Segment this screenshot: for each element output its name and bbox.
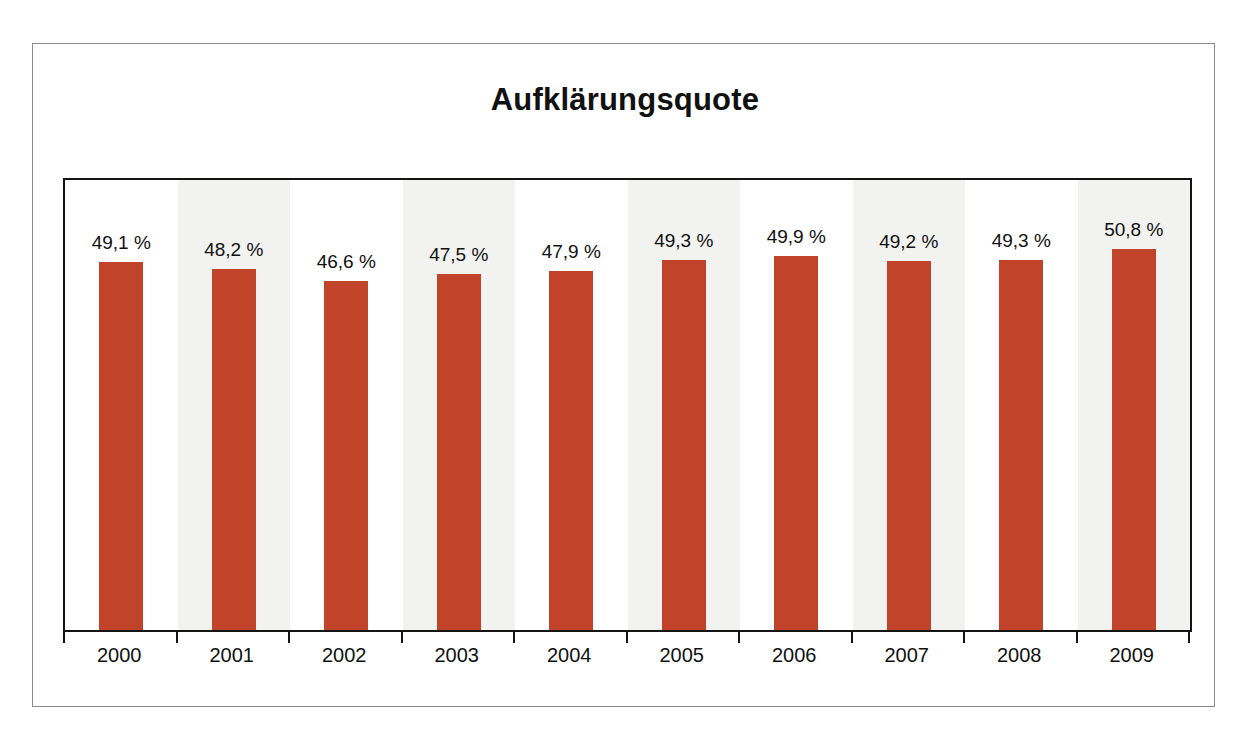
bar-value-label: 49,9 % (767, 227, 826, 246)
bar-value-label: 50,8 % (1104, 220, 1163, 239)
x-axis-tick (851, 632, 853, 643)
bar[interactable] (662, 260, 706, 630)
bar-group: 49,3 % (965, 180, 1078, 630)
x-axis-label: 2007 (885, 645, 930, 665)
x-axis: 2000200120022003200420052006200720082009 (63, 632, 1192, 674)
bar[interactable] (774, 256, 818, 630)
chart-title: Aufklärungsquote (0, 84, 1250, 115)
bar[interactable] (212, 269, 256, 631)
bar-group: 50,8 % (1078, 180, 1191, 630)
bar-value-label: 49,2 % (879, 232, 938, 251)
bar-value-label: 46,6 % (317, 252, 376, 271)
x-axis-label: 2006 (772, 645, 817, 665)
bar-value-label: 47,9 % (542, 242, 601, 261)
bar-value-label: 49,3 % (654, 231, 713, 250)
x-axis-label: 2009 (1110, 645, 1155, 665)
x-axis-tick (963, 632, 965, 643)
bar-group: 47,5 % (403, 180, 516, 630)
bar[interactable] (99, 262, 143, 630)
x-axis-tick (288, 632, 290, 643)
x-axis-label: 2002 (322, 645, 367, 665)
x-axis-tick (1076, 632, 1078, 643)
cutoff-body-text (36, 735, 1216, 744)
bar[interactable] (999, 260, 1043, 630)
x-axis-label: 2008 (997, 645, 1042, 665)
x-axis-tick (513, 632, 515, 643)
bar[interactable] (324, 281, 368, 631)
bar-value-label: 48,2 % (204, 240, 263, 259)
bar[interactable] (1112, 249, 1156, 630)
bar-group: 46,6 % (290, 180, 403, 630)
bar[interactable] (887, 261, 931, 630)
plot-area: 49,1 %48,2 %46,6 %47,5 %47,9 %49,3 %49,9… (63, 178, 1192, 632)
bar-value-label: 47,5 % (429, 245, 488, 264)
x-axis-label: 2000 (97, 645, 142, 665)
bar-group: 49,3 % (628, 180, 741, 630)
bar-group: 48,2 % (178, 180, 291, 630)
bar-group: 49,2 % (853, 180, 966, 630)
x-axis-tick (63, 632, 65, 643)
x-axis-label: 2003 (435, 645, 480, 665)
bar[interactable] (549, 271, 593, 630)
bar-group: 47,9 % (515, 180, 628, 630)
x-axis-label: 2005 (660, 645, 705, 665)
x-axis-tick (1188, 632, 1190, 643)
x-axis-label: 2001 (210, 645, 255, 665)
bar-group: 49,1 % (65, 180, 178, 630)
bar-value-label: 49,3 % (992, 231, 1051, 250)
bar[interactable] (437, 274, 481, 630)
bar-group: 49,9 % (740, 180, 853, 630)
x-axis-tick (738, 632, 740, 643)
x-axis-tick (626, 632, 628, 643)
bar-value-label: 49,1 % (92, 233, 151, 252)
x-axis-tick (401, 632, 403, 643)
x-axis-tick (176, 632, 178, 643)
x-axis-label: 2004 (547, 645, 592, 665)
